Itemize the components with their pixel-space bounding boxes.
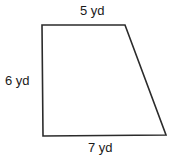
bottom-side-label: 7 yd [88,141,113,154]
trapezoid-diagram: 5 yd 6 yd 7 yd [0,0,178,160]
trapezoid-outline [42,25,166,136]
top-side-label: 5 yd [80,4,105,17]
left-side-label: 6 yd [5,74,30,87]
